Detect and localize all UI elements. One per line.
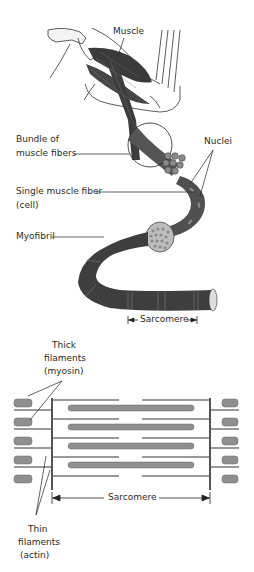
single-muscle-fiber [146, 176, 205, 252]
thin-label-line2: filaments [18, 537, 60, 548]
nuclei-label: Nuclei [204, 136, 232, 147]
muscle-diagram [0, 0, 254, 572]
single-fiber-label-line2: (cell) [16, 200, 39, 211]
thin-label-line3: (actin) [20, 550, 49, 561]
thin-label-line1: Thin [28, 524, 47, 535]
bundle-label-line1: Bundle of [16, 134, 59, 145]
myofibril [78, 232, 217, 311]
myofibril-label: Myofibril [16, 231, 55, 242]
thick-label-line3: (myosin) [44, 366, 84, 377]
lower-sarcomere-label: Sarcomere [106, 492, 159, 503]
thick-label-line1: Thick [52, 340, 76, 351]
thick-label-line2: filaments [44, 353, 86, 364]
muscle-label: Muscle [113, 26, 144, 37]
upper-sarcomere-label: Sarcomere [140, 314, 189, 325]
single-fiber-label-line1: Single muscle fiber [16, 186, 102, 197]
bundle-label-line2: muscle fibers [16, 148, 76, 159]
